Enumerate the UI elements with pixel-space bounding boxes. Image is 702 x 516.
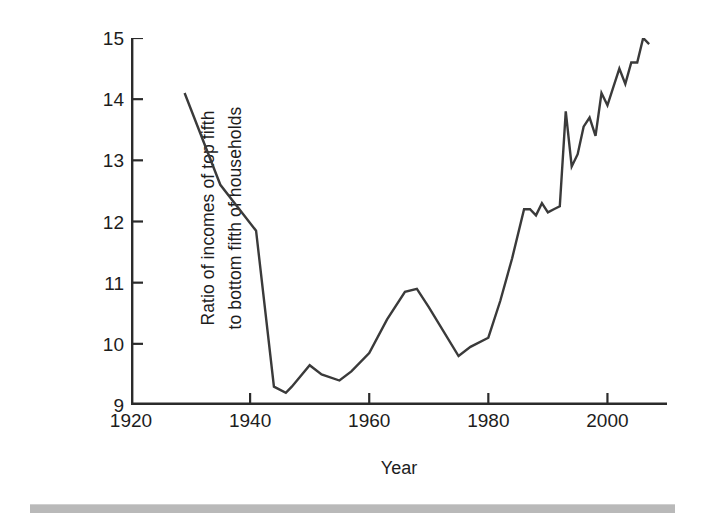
- y-axis-tick-label: 13: [78, 151, 124, 170]
- plot-area: [131, 38, 667, 405]
- x-axis-tick-labels: 19201940196019802000: [131, 411, 691, 437]
- y-axis-tick-label: 11: [78, 274, 124, 293]
- data-series-line: [131, 38, 667, 405]
- x-axis-title: Year: [131, 458, 667, 479]
- x-axis-tick-label: 1940: [215, 411, 285, 430]
- y-axis-tick-labels: 1514131211109: [74, 38, 124, 405]
- x-axis-tick-label: 1980: [453, 411, 523, 430]
- x-axis-tick-label: 1920: [96, 411, 166, 430]
- y-axis-title: Ratio of incomes of top fifth to bottom …: [18, 28, 80, 408]
- y-axis-tick-label: 12: [78, 213, 124, 232]
- x-axis-tick-label: 1960: [334, 411, 404, 430]
- income-ratio-line: [185, 38, 650, 393]
- y-axis-tick-label: 14: [78, 90, 124, 109]
- footer-rule: [30, 504, 675, 513]
- x-axis-tick-label: 2000: [572, 411, 642, 430]
- y-axis-tick-label: 15: [78, 29, 124, 48]
- chart-figure: Ratio of incomes of top fifth to bottom …: [0, 0, 702, 516]
- y-axis-tick-label: 10: [78, 335, 124, 354]
